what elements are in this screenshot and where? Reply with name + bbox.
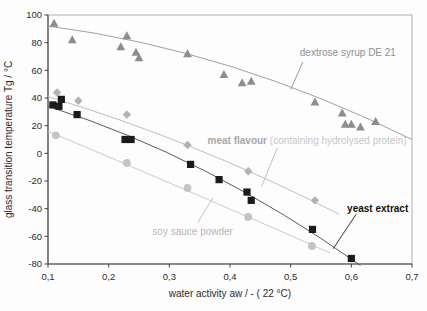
data-point-circle xyxy=(52,131,60,139)
label-leader-line xyxy=(198,198,213,223)
x-tick-label: 0,6 xyxy=(345,271,358,282)
data-point-square xyxy=(248,197,255,204)
data-point-triangle xyxy=(356,122,365,130)
y-tick-label: -80 xyxy=(28,258,42,269)
y-tick-label: 60 xyxy=(31,65,42,76)
data-point-diamond xyxy=(183,141,191,149)
data-point-square xyxy=(348,255,355,262)
x-tick-label: 0,5 xyxy=(284,271,297,282)
data-point-square xyxy=(74,111,81,118)
data-point-square xyxy=(187,161,194,168)
x-tick-label: 0,1 xyxy=(41,271,54,282)
y-tick-label: 0 xyxy=(37,148,42,159)
label-leader-line xyxy=(333,214,356,249)
data-point-triangle xyxy=(338,109,347,117)
data-point-square xyxy=(243,188,250,195)
data-point-diamond xyxy=(244,167,252,175)
y-tick-label: 100 xyxy=(26,9,42,20)
data-point-square xyxy=(55,103,62,110)
x-tick-label: 0,4 xyxy=(223,271,236,282)
trend-line-diamond xyxy=(48,97,339,215)
x-tick-label: 0,2 xyxy=(102,271,115,282)
data-point-diamond xyxy=(123,110,131,118)
data-point-triangle xyxy=(247,77,256,85)
data-point-square xyxy=(215,176,222,183)
data-point-circle xyxy=(184,184,192,192)
data-point-circle xyxy=(123,159,131,167)
series-label: meat flavour (containing hydrolysed prot… xyxy=(208,135,407,146)
data-point-diamond xyxy=(74,97,82,105)
scatter-chart-figure: 0,10,20,30,40,50,60,7100806040200-20-40-… xyxy=(0,0,427,311)
chart-canvas: 0,10,20,30,40,50,60,7100806040200-20-40-… xyxy=(0,0,427,311)
data-point-diamond xyxy=(53,88,61,96)
label-leader-line xyxy=(291,62,303,90)
series-label: dextrose syrup DE 21 xyxy=(300,47,397,58)
y-axis-title: glass transition temperature Tg / °C xyxy=(3,61,14,218)
data-point-square xyxy=(309,226,316,233)
data-point-triangle xyxy=(116,42,125,50)
y-tick-label: -60 xyxy=(28,231,42,242)
data-point-triangle xyxy=(220,70,229,78)
trend-line-triangle xyxy=(48,26,412,139)
data-point-square xyxy=(128,136,135,143)
series-label: yeast extract xyxy=(347,203,409,214)
data-point-triangle xyxy=(311,98,320,106)
data-point-triangle xyxy=(50,19,59,27)
y-tick-label: 20 xyxy=(31,120,42,131)
data-point-circle xyxy=(244,213,252,221)
data-point-triangle xyxy=(347,120,356,128)
series-label: soy sauce powder xyxy=(152,226,233,237)
x-axis-title: water activity aw / - ( 22 °C) xyxy=(168,288,291,299)
x-tick-label: 0,3 xyxy=(163,271,176,282)
x-tick-label: 0,7 xyxy=(405,271,418,282)
y-tick-label: -20 xyxy=(28,175,42,186)
data-point-square xyxy=(58,96,65,103)
y-tick-label: -40 xyxy=(28,203,42,214)
data-point-triangle xyxy=(122,31,131,39)
trend-line-square xyxy=(48,106,360,265)
data-point-circle xyxy=(308,242,316,250)
data-point-triangle xyxy=(238,78,247,86)
y-tick-label: 40 xyxy=(31,92,42,103)
y-tick-label: 80 xyxy=(31,37,42,48)
data-point-triangle xyxy=(68,35,77,43)
